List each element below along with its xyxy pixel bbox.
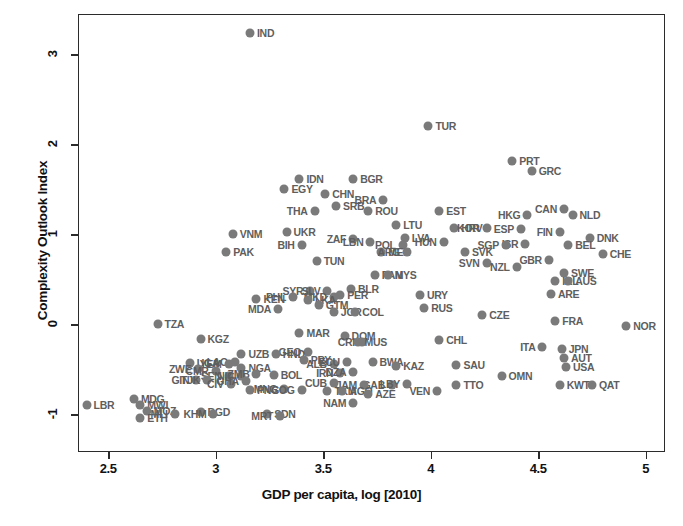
scatter-point-aut[interactable] — [559, 353, 568, 362]
scatter-point-ita[interactable] — [538, 342, 547, 351]
scatter-point-chl[interactable] — [435, 336, 444, 345]
scatter-point-prt[interactable] — [508, 156, 517, 165]
x-tick-label-2.5: 2.5 — [100, 461, 117, 476]
scatter-point-tun[interactable] — [312, 257, 321, 266]
scatter-point-kgz[interactable] — [196, 334, 205, 343]
chart-canvas: INDTURPRTGRCIDNBGREGYCHNSRBBRATHAROUESTH… — [0, 0, 683, 526]
scatter-point-che[interactable] — [598, 250, 607, 259]
point-label-qat: QAT — [599, 380, 620, 391]
scatter-point-ind[interactable] — [246, 28, 255, 37]
point-label-mus: MUS — [365, 337, 387, 348]
scatter-point-tto[interactable] — [452, 381, 461, 390]
scatter-point-mli[interactable] — [170, 410, 179, 419]
scatter-point-omn[interactable] — [497, 371, 506, 380]
scatter-point-bol[interactable] — [269, 370, 278, 379]
scatter-point-bih[interactable] — [297, 241, 306, 250]
scatter-point-usa[interactable] — [562, 362, 571, 371]
scatter-point-nzl[interactable] — [512, 262, 521, 271]
scatter-point-fin[interactable] — [555, 227, 564, 236]
scatter-point-isr[interactable] — [521, 240, 530, 249]
scatter-point-dza[interactable] — [349, 367, 358, 376]
scatter-point-ukr[interactable] — [282, 227, 291, 236]
scatter-point-grc[interactable] — [527, 167, 536, 176]
scatter-point-esp[interactable] — [516, 224, 525, 233]
scatter-point-mrt[interactable] — [276, 412, 285, 421]
scatter-point-gha[interactable] — [241, 376, 250, 385]
scatter-point-hun[interactable] — [439, 237, 448, 246]
y-tick-3 — [71, 54, 78, 56]
point-label-mda: MDA — [248, 304, 271, 315]
scatter-point-cze[interactable] — [478, 311, 487, 320]
scatter-point-rou[interactable] — [364, 206, 373, 215]
scatter-point-pan[interactable] — [370, 270, 379, 279]
scatter-point-kaz[interactable] — [392, 361, 401, 370]
scatter-point-tkm[interactable] — [323, 386, 332, 395]
x-tick-5 — [646, 452, 648, 459]
scatter-point-bel[interactable] — [564, 241, 573, 250]
scatter-point-ury[interactable] — [415, 290, 424, 299]
scatter-point-png[interactable] — [246, 385, 255, 394]
scatter-point-bgr[interactable] — [349, 174, 358, 183]
scatter-point-qat[interactable] — [587, 381, 596, 390]
scatter-point-srb[interactable] — [332, 201, 341, 210]
scatter-point-vnm[interactable] — [228, 230, 237, 239]
point-label-mli: MLI — [151, 409, 168, 420]
scatter-point-phl[interactable] — [289, 293, 298, 302]
scatter-point-nam[interactable] — [349, 399, 358, 408]
scatter-point-hnd[interactable] — [271, 349, 280, 358]
scatter-point-sau[interactable] — [452, 360, 461, 369]
scatter-point-ven[interactable] — [433, 386, 442, 395]
scatter-point-mus[interactable] — [353, 338, 362, 347]
scatter-point-zmb[interactable] — [252, 369, 261, 378]
x-tick-4.5 — [538, 452, 540, 459]
x-tick-label-4.5: 4.5 — [530, 461, 547, 476]
scatter-point-mar[interactable] — [295, 329, 304, 338]
scatter-point-chn[interactable] — [321, 189, 330, 198]
scatter-point-rus[interactable] — [420, 304, 429, 313]
scatter-point-tur[interactable] — [424, 121, 433, 130]
point-label-bra: BRA — [354, 195, 376, 206]
scatter-point-irl[interactable] — [551, 277, 560, 286]
scatter-point-arg[interactable] — [402, 248, 411, 257]
scatter-point-gbr[interactable] — [544, 255, 553, 264]
scatter-point-can[interactable] — [559, 205, 568, 214]
scatter-point-eth[interactable] — [136, 413, 145, 422]
scatter-point-cog[interactable] — [297, 385, 306, 394]
scatter-point-mys[interactable] — [383, 270, 392, 279]
scatter-point-col[interactable] — [351, 307, 360, 316]
scatter-point-uzb[interactable] — [237, 349, 246, 358]
scatter-point-kor[interactable] — [482, 224, 491, 233]
point-label-nld: NLD — [580, 210, 601, 221]
scatter-point-jor[interactable] — [329, 307, 338, 316]
scatter-point-bwa[interactable] — [368, 358, 377, 367]
scatter-point-bra[interactable] — [379, 196, 388, 205]
scatter-point-lbn[interactable] — [366, 237, 375, 246]
scatter-point-kwt[interactable] — [555, 381, 564, 390]
scatter-point-pak[interactable] — [222, 248, 231, 257]
scatter-point-egy[interactable] — [280, 185, 289, 194]
scatter-point-est[interactable] — [435, 206, 444, 215]
scatter-point-tha[interactable] — [310, 206, 319, 215]
scatter-point-fra[interactable] — [551, 316, 560, 325]
scatter-point-aus[interactable] — [564, 277, 573, 286]
point-label-esp: ESP — [494, 224, 514, 235]
scatter-point-lbr[interactable] — [82, 401, 91, 410]
scatter-point-nld[interactable] — [568, 211, 577, 220]
scatter-point-are[interactable] — [547, 289, 556, 298]
scatter-point-lka[interactable] — [304, 296, 313, 305]
point-label-per: PER — [347, 289, 368, 300]
scatter-point-gtm[interactable] — [314, 301, 323, 310]
scatter-point-nor[interactable] — [622, 322, 631, 331]
y-tick-label-3: 3 — [45, 51, 60, 58]
scatter-point-svk[interactable] — [461, 248, 470, 257]
scatter-point-tza[interactable] — [153, 320, 162, 329]
scatter-point-aze[interactable] — [364, 390, 373, 399]
scatter-point-sgp[interactable] — [501, 241, 510, 250]
scatter-point-jpn[interactable] — [557, 344, 566, 353]
scatter-point-ago[interactable] — [338, 386, 347, 395]
scatter-point-khm[interactable] — [209, 410, 218, 419]
scatter-point-hkg[interactable] — [523, 210, 532, 219]
point-label-ven: VEN — [409, 386, 430, 397]
scatter-point-mda[interactable] — [273, 304, 282, 313]
scatter-point-ltu[interactable] — [392, 221, 401, 230]
